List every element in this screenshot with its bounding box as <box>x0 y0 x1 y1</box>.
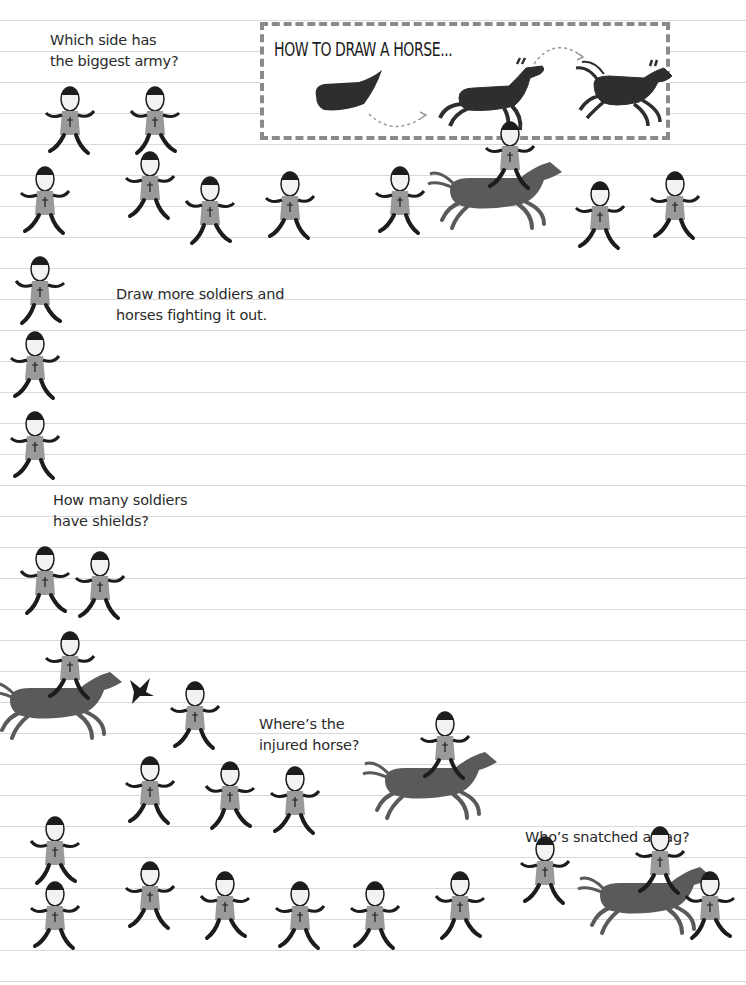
soldier-axe-icon <box>260 170 320 249</box>
soldier-axe-2-icon <box>200 760 260 839</box>
rule-line <box>0 361 746 362</box>
rule-line <box>0 299 746 300</box>
soldier-archer-3-icon <box>120 755 180 834</box>
horse-rider-2-icon <box>0 660 130 754</box>
soldier-hit-icon <box>370 165 430 244</box>
prompt-draw-more: Draw more soldiers and horses fighting i… <box>116 284 284 326</box>
row-bottom-3-icon <box>195 870 255 949</box>
row-bottom-8-icon <box>680 870 740 949</box>
soldier-archer-2-icon <box>645 170 705 249</box>
soldier-cross-icon <box>10 255 70 334</box>
soldier-spear-icon <box>15 545 75 624</box>
soldier-arrow-hit-icon <box>5 330 65 409</box>
row-bottom-1-icon <box>25 880 85 959</box>
rule-line <box>0 20 746 21</box>
soldier-running-2-icon <box>570 180 630 259</box>
rule-line <box>0 485 746 486</box>
how-to-draw-horse-box: HOW TO DRAW A HORSE... <box>260 22 670 140</box>
horse-rider-1-icon <box>440 150 570 244</box>
rule-line <box>0 981 746 982</box>
rule-line <box>0 640 746 641</box>
soldier-injured-icon <box>265 765 325 844</box>
bird-icon <box>120 670 160 714</box>
row-bottom-6-icon <box>430 870 490 949</box>
rule-line <box>0 330 746 331</box>
row-bottom-7-icon <box>515 835 575 914</box>
rule-line <box>0 144 746 145</box>
prompt-shields: How many soldiers have shields? <box>53 490 187 532</box>
row-bottom-5-icon <box>345 880 405 959</box>
rule-line <box>0 547 746 548</box>
soldier-sword-icon <box>120 150 180 229</box>
step-finished-horse-icon <box>576 60 672 126</box>
rule-line <box>0 268 746 269</box>
soldier-tumbling-icon <box>165 680 225 759</box>
horse-steps-illustration <box>264 26 666 136</box>
soldier-running-1-icon <box>40 85 100 164</box>
soldier-falling-icon <box>15 165 75 244</box>
soldier-shield-icon <box>70 550 130 629</box>
rule-line <box>0 423 746 424</box>
rule-line <box>0 392 746 393</box>
rule-line <box>0 795 746 796</box>
prompt-biggest-army: Which side has the biggest army? <box>50 30 178 72</box>
rule-line <box>0 454 746 455</box>
step-horse-outline-icon <box>440 58 544 132</box>
prompt-injured-horse: Where’s the injured horse? <box>259 714 359 756</box>
soldier-archer-1-icon <box>180 175 240 254</box>
step-body-shape-icon <box>316 70 382 110</box>
row-bottom-4-icon <box>270 880 330 959</box>
activity-page: Which side has the biggest army? Draw mo… <box>0 0 746 985</box>
soldier-kneeling-icon <box>5 410 65 489</box>
row-bottom-2-icon <box>120 860 180 939</box>
horse-rider-3-icon <box>375 740 505 834</box>
